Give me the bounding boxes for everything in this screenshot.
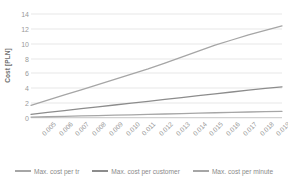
y-axis-tick-label: 8 <box>25 55 29 62</box>
legend-label: Max. cost per minute <box>212 168 273 175</box>
series-line-2 <box>31 87 282 114</box>
y-axis-tick-label: 2 <box>25 100 29 107</box>
plot-area <box>31 14 282 118</box>
legend-item-1[interactable]: Max. cost per tr <box>15 168 79 175</box>
legend-line-icon <box>193 170 209 172</box>
line-chart: Cost [PLN] 02468101214 0.0050.0060.0070.… <box>0 0 288 185</box>
legend-item-3[interactable]: Max. cost per minute <box>193 168 273 175</box>
x-axis-tick-label: 0.012 <box>158 120 175 137</box>
x-axis-tick-label: 0.009 <box>107 120 124 137</box>
x-axis-tick-label: 0.008 <box>91 120 108 137</box>
x-axis-tick-label: 0.007 <box>74 120 91 137</box>
x-axis-tick-label: 0.014 <box>191 120 208 137</box>
y-axis-tick-label: 10 <box>21 40 29 47</box>
x-axis-tick-label: 0.005 <box>40 120 57 137</box>
x-axis-tick-label: 0.018 <box>258 120 275 137</box>
legend-label: Max. cost per customer <box>111 168 180 175</box>
x-axis-tick-label: 0.010 <box>124 120 141 137</box>
y-axis-tick-labels: 02468101214 <box>13 14 30 118</box>
series-line-1 <box>31 26 282 105</box>
x-axis-tick-label: 0.016 <box>224 120 241 137</box>
y-axis-tick-label: 0 <box>25 115 29 122</box>
y-axis-tick-label: 12 <box>21 25 29 32</box>
legend-line-icon <box>92 170 108 172</box>
y-axis-tick-label: 14 <box>21 11 29 18</box>
y-axis-tick-label: 6 <box>25 70 29 77</box>
x-axis-tick-label: 0.013 <box>174 120 191 137</box>
x-axis-tick-label: 0.015 <box>208 120 225 137</box>
x-axis-tick-label: 0.017 <box>241 120 258 137</box>
legend-item-2[interactable]: Max. cost per customer <box>92 168 180 175</box>
y-axis-title: Cost [PLN] <box>0 0 14 130</box>
x-axis-tick-label: 0.019 <box>275 120 288 137</box>
y-axis-tick-label: 4 <box>25 85 29 92</box>
chart-legend: Max. cost per trMax. cost per customerMa… <box>0 162 288 180</box>
y-axis-title-label: Cost [PLN] <box>4 48 11 83</box>
legend-line-icon <box>15 170 31 172</box>
x-axis-tick-label: 0.006 <box>57 120 74 137</box>
series-line-3 <box>31 111 282 117</box>
x-axis-tick-labels: 0.0050.0060.0070.0080.0090.0100.0110.012… <box>31 119 282 157</box>
series-lines <box>31 14 282 118</box>
x-axis-tick-label: 0.011 <box>141 120 157 136</box>
legend-label: Max. cost per tr <box>34 168 79 175</box>
